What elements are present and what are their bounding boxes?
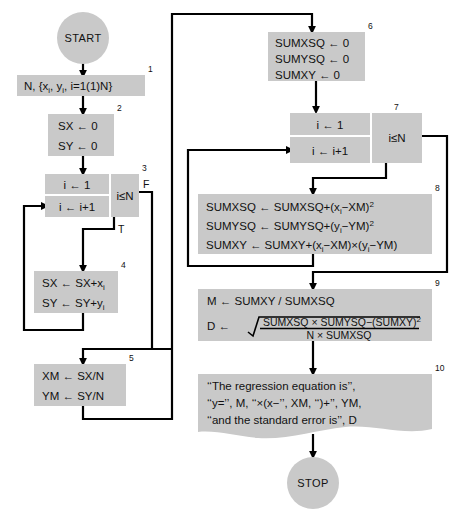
- box-9-denominator: N × SUMXSQ: [306, 329, 371, 341]
- box-6-line-3: SUMXY ← 0: [275, 69, 340, 81]
- box-9-number: 9: [435, 278, 440, 288]
- box-2-line-1: SX ← 0: [58, 120, 98, 132]
- box-6-line-1: SUMXSQ ← 0: [275, 37, 349, 49]
- flowchart-canvas: START 1 N, {xi, yi, i=1(1)N} 2 SX ← 0 SY…: [0, 0, 459, 516]
- loop-box-7: 7 i ← 1 i ← i+1 i≤N: [290, 102, 422, 163]
- box-9-line-1: M ← SUMXY / SUMXSQ: [207, 295, 335, 307]
- box-9-numerator: SUMXSQ × SUMYSQ−(SUMXY)2: [263, 315, 421, 328]
- box-5-line-1: XM ← SX/N: [42, 370, 104, 382]
- box-5-line-2: YM ← SY/N: [42, 390, 104, 402]
- start-label: START: [64, 32, 101, 44]
- process-box-8: 8 SUMXSQ ← SUMXSQ+(xi−XM)2 SUMYSQ ← SUMY…: [198, 183, 440, 254]
- box-10-line-2: ‘‘y=’’, M, ‘‘×(x−’’, XM, ‘‘)+’’, YM,: [207, 397, 361, 409]
- box-9-d-label: D ←: [207, 320, 230, 332]
- process-box-9: 9 M ← SUMXY / SUMXSQ D ← SUMXSQ × SUMYSQ…: [198, 278, 440, 341]
- terminal-start: START: [57, 12, 109, 64]
- box-6-line-2: SUMYSQ ← 0: [275, 53, 349, 65]
- box-5-number: 5: [129, 353, 134, 363]
- box-8-number: 8: [435, 183, 440, 193]
- box-7-condition: i≤N: [388, 132, 405, 144]
- box-3-condition: i≤N: [116, 190, 133, 202]
- process-box-4: 4 SX ← SX+xi SY ← SY+yi: [34, 260, 126, 313]
- box-2-line-2: SY ← 0: [58, 140, 97, 152]
- terminal-stop: STOP: [287, 457, 339, 509]
- process-box-1: 1 N, {xi, yi, i=1(1)N}: [17, 64, 153, 96]
- box-3-init: i ← 1: [64, 179, 91, 191]
- box-7-increment: i ← i+1: [312, 145, 348, 157]
- stop-label: STOP: [297, 477, 328, 489]
- output-box-10: 10 ‘‘The regression equation is’’, ‘‘y=’…: [198, 363, 445, 438]
- box-1-number: 1: [148, 64, 153, 74]
- process-box-2: 2 SX ← 0 SY ← 0: [48, 103, 122, 156]
- box-6-number: 6: [368, 21, 373, 31]
- box-10-line-1: ‘‘The regression equation is’’,: [207, 380, 356, 392]
- box-7-number: 7: [394, 102, 399, 112]
- box-10-number: 10: [435, 363, 445, 373]
- box-3-increment: i ← i+1: [59, 201, 95, 213]
- box-3-true-label: T: [118, 223, 125, 235]
- box-3-number: 3: [142, 163, 147, 173]
- box-7-init: i ← 1: [317, 119, 344, 131]
- loop-box-3: 3 i ← 1 i ← i+1 i≤N F T: [45, 163, 149, 235]
- box-2-number: 2: [117, 103, 122, 113]
- box-4-number: 4: [121, 260, 126, 270]
- box-3-false-label: F: [143, 178, 149, 190]
- process-box-6: 6 SUMXSQ ← 0 SUMYSQ ← 0 SUMXY ← 0: [268, 21, 373, 81]
- box-10-line-3: ‘‘and the standard error is’’, D: [207, 414, 357, 426]
